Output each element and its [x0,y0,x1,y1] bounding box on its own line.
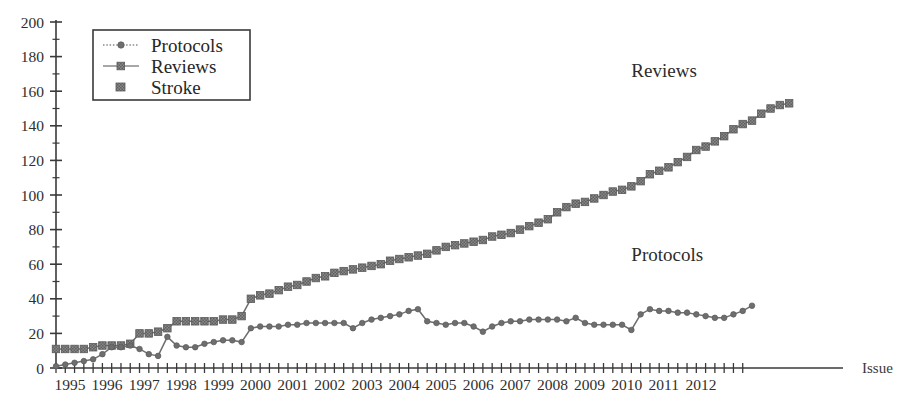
data-point-marker [423,250,431,258]
data-point-marker [610,322,616,328]
x-axis-tick-label: 2012 [685,376,716,393]
data-point-marker [647,306,653,312]
data-point-marker [350,325,356,331]
chart-legend: ProtocolsReviewsStroke [93,30,250,100]
data-point-marker [619,322,625,328]
data-point-marker [165,334,171,340]
data-point-marker [785,100,793,108]
data-point-marker [637,177,645,185]
data-point-marker [80,345,88,353]
x-axis-tick-label: 2001 [277,376,308,393]
data-point-marker [600,191,608,199]
x-axis: 1995199619971998199920002001200220032004… [54,360,893,393]
data-point-marker [433,247,441,255]
data-point-marker [739,120,747,128]
data-point-marker [638,312,644,318]
data-point-marker [415,306,421,312]
data-point-marker [266,290,274,298]
data-point-marker [629,327,635,333]
data-point-marker [675,310,681,316]
y-axis-tick-label: 140 [21,117,45,134]
data-point-marker [609,188,617,196]
data-point-marker [164,324,172,332]
data-point-marker [313,320,319,326]
data-point-marker [257,324,263,330]
data-point-marker [442,243,450,251]
data-point-marker [508,318,514,324]
data-point-marker [81,358,87,364]
series-protocols [53,303,755,369]
data-point-marker [694,312,700,318]
data-point-marker [665,164,673,172]
data-point-marker [545,317,551,323]
data-point-marker [358,264,366,272]
data-point-marker [349,266,357,274]
data-point-marker [145,330,153,338]
x-axis-tick-label: 2005 [426,376,457,393]
data-point-marker [646,170,654,178]
data-point-marker [378,315,384,321]
data-point-marker [90,357,96,363]
data-point-marker [201,318,209,326]
data-point-marker [628,183,636,191]
x-axis-tick-label: 2002 [314,376,345,393]
data-point-marker [452,320,458,326]
data-point-marker [720,132,728,140]
y-axis-tick-label: 40 [29,290,45,307]
data-point-marker [507,229,514,237]
x-axis-tick-label: 2011 [649,376,679,393]
x-axis-tick-label: 1999 [203,376,234,393]
data-point-marker [730,126,738,134]
data-point-marker [749,303,755,309]
data-point-marker [414,252,422,259]
data-point-marker [332,320,338,326]
y-axis-tick-label: 180 [21,48,45,65]
data-point-marker [100,351,106,357]
data-point-marker [238,312,246,320]
data-point-marker [776,101,784,109]
data-point-marker [89,343,97,351]
data-point-marker [72,360,78,366]
data-point-marker [683,153,691,161]
data-point-marker [71,345,79,353]
data-point-marker [693,146,701,154]
data-point-marker [304,320,310,326]
data-point-marker [239,339,245,345]
data-point-marker [656,308,662,314]
data-point-marker [573,315,579,321]
data-point-marker [62,345,70,353]
x-axis-title: Issue [862,360,893,376]
x-axis-tick-label: 1996 [92,376,123,393]
data-point-marker [535,219,543,227]
data-point-marker [655,167,663,175]
data-point-marker [303,278,311,286]
data-point-marker [321,273,329,281]
legend-circle-marker-icon [118,42,124,48]
data-point-marker [369,317,375,323]
data-point-marker [443,322,449,328]
data-point-marker [182,318,190,326]
series-annotation-reviews: Reviews [631,60,696,81]
data-point-marker [192,344,198,350]
data-point-marker [210,318,218,326]
legend-label: Protocols [151,35,223,56]
data-point-marker [173,318,181,326]
data-point-marker [387,313,393,319]
data-point-marker [62,362,68,368]
data-point-marker [275,286,283,294]
x-axis-tick-label: 1998 [166,376,197,393]
x-axis-tick-label: 2009 [574,376,605,393]
data-point-marker [711,138,719,146]
data-point-marker [136,330,144,338]
data-point-marker [684,310,690,316]
data-point-marker [721,315,727,321]
data-point-marker [767,105,775,113]
data-point-marker [572,200,580,208]
data-point-marker [758,110,766,118]
data-point-marker [451,241,459,249]
data-point-marker [109,344,115,350]
x-axis-tick-label: 2008 [537,376,568,393]
data-series-group [52,100,793,370]
line-chart: 020406080100120140160180200 199519961997… [0,0,908,419]
legend-square-marker-icon [117,62,125,70]
